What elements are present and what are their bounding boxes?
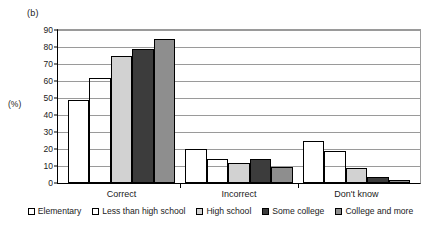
bar-correct-less-than-high-school xyxy=(89,78,111,183)
legend-swatch-some-college-icon xyxy=(262,208,269,215)
plot-area: 0102030405060708090 CorrectIncorrectDon'… xyxy=(57,29,421,184)
x-axis-label-don-t-know: Don't know xyxy=(334,189,378,199)
bar-incorrect-college-and-more xyxy=(271,167,293,183)
legend-item-high-school[interactable]: High school xyxy=(196,206,251,216)
chart-legend: ElementaryLess than high schoolHigh scho… xyxy=(0,206,441,216)
legend-item-less-than-high-school[interactable]: Less than high school xyxy=(92,206,185,216)
y-tick-label-50: 50 xyxy=(44,93,53,103)
y-tick-label-20: 20 xyxy=(44,144,53,154)
x-axis-label-correct: Correct xyxy=(107,189,137,199)
bar-correct-high-school xyxy=(111,56,133,184)
legend-item-elementary[interactable]: Elementary xyxy=(28,206,81,216)
legend-item-college-and-more[interactable]: College and more xyxy=(335,206,413,216)
bar-don-t-know-high-school xyxy=(346,168,368,183)
legend-item-some-college[interactable]: Some college xyxy=(262,206,324,216)
bar-don-t-know-elementary xyxy=(303,141,325,184)
bar-incorrect-high-school xyxy=(228,163,250,183)
legend-label-less-than-high-school: Less than high school xyxy=(102,206,185,216)
y-tick-label-80: 80 xyxy=(44,42,53,52)
bar-don-t-know-college-and-more xyxy=(389,180,411,183)
bar-correct-some-college xyxy=(132,49,154,183)
y-axis-label: (%) xyxy=(8,99,21,109)
bar-incorrect-less-than-high-school xyxy=(207,159,229,183)
legend-label-high-school: High school xyxy=(206,206,251,216)
bar-correct-elementary xyxy=(68,100,90,183)
x-axis-label-incorrect: Incorrect xyxy=(221,189,256,199)
y-tick-label-90: 90 xyxy=(44,25,53,35)
bar-incorrect-elementary xyxy=(185,149,207,183)
y-tick-label-40: 40 xyxy=(44,110,53,120)
legend-swatch-college-and-more-icon xyxy=(335,208,342,215)
legend-swatch-elementary-icon xyxy=(28,208,35,215)
legend-label-some-college: Some college xyxy=(272,206,324,216)
x-tick-mark-1 xyxy=(298,183,299,188)
x-tick-mark-0 xyxy=(180,183,181,188)
y-tick-label-60: 60 xyxy=(44,76,53,86)
bar-correct-college-and-more xyxy=(154,39,176,184)
panel-label: (b) xyxy=(27,8,39,18)
legend-swatch-high-school-icon xyxy=(196,208,203,215)
legend-swatch-less-than-high-school-icon xyxy=(92,208,99,215)
y-tick-label-0: 0 xyxy=(48,178,53,188)
y-tick-label-30: 30 xyxy=(44,127,53,137)
legend-label-elementary: Elementary xyxy=(38,206,81,216)
legend-label-college-and-more: College and more xyxy=(345,206,413,216)
bar-don-t-know-some-college xyxy=(367,177,389,183)
bar-don-t-know-less-than-high-school xyxy=(324,151,346,183)
y-tick-label-10: 10 xyxy=(44,161,53,171)
bar-series-container xyxy=(58,30,420,183)
bar-incorrect-some-college xyxy=(250,159,272,183)
y-tick-label-70: 70 xyxy=(44,59,53,69)
